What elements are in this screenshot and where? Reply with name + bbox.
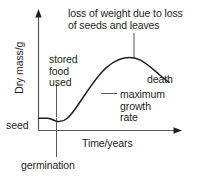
y-origin-label-seed: seed <box>6 120 28 132</box>
x-axis <box>39 127 183 133</box>
annotation-maximum-growth-rate: maximum growth rate <box>120 89 165 124</box>
y-axis-label: Dry mass/g <box>14 38 26 98</box>
annotation-stored-food-used: stored food used <box>49 54 78 89</box>
annotation-death: death <box>147 74 173 86</box>
y-axis <box>35 9 41 131</box>
x-axis-label: Time/years <box>82 138 133 150</box>
annotation-loss-of-weight: loss of weight due to loss of seeds and … <box>68 8 183 31</box>
dry-mass-time-graph: loss of weight due to loss of seeds and … <box>0 0 199 181</box>
x-origin-label-germination: germination <box>21 160 75 172</box>
